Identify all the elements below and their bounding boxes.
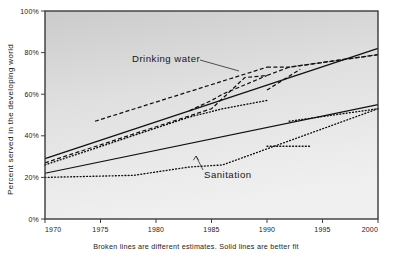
- annotation-label-sanitation: Sanitation: [204, 169, 252, 180]
- y-axis-title: Percent served in the developing world: [6, 44, 15, 195]
- y-tick-label: 20%: [24, 174, 39, 181]
- x-tick-label: 1975: [92, 226, 108, 233]
- chart-caption: Broken lines are different estimates. So…: [93, 242, 299, 251]
- x-tick-label: 1970: [45, 226, 61, 233]
- y-tick-label: 80%: [24, 49, 39, 56]
- y-tick-label: 60%: [24, 91, 39, 98]
- chart-figure: 0%20%40%60%80%100% 197019751980198519901…: [0, 0, 393, 259]
- y-tick-label: 100%: [20, 8, 39, 15]
- x-tick-label: 1995: [314, 226, 330, 233]
- x-tick-label: 1985: [203, 226, 219, 233]
- annotation-label-drinking-water: Drinking water: [132, 53, 201, 64]
- x-tick-label: 1980: [148, 226, 164, 233]
- y-tick-label: 0%: [28, 216, 39, 223]
- y-tick-label: 40%: [24, 132, 39, 139]
- x-tick-label: 2000: [362, 226, 378, 233]
- x-tick-label: 1990: [259, 226, 275, 233]
